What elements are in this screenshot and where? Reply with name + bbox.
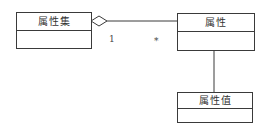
- class-attribute-value[interactable]: 属性值: [177, 92, 253, 123]
- class-name: 属性值: [178, 93, 252, 109]
- class-name: 属性集: [17, 13, 91, 31]
- class-attribute[interactable]: 属性: [177, 13, 255, 51]
- multiplicity-one: 1: [109, 34, 115, 44]
- class-attribute-set[interactable]: 属性集: [16, 12, 92, 49]
- multiplicity-many: *: [154, 36, 159, 46]
- class-name: 属性: [178, 14, 254, 32]
- aggregation-diamond-icon: [91, 16, 107, 26]
